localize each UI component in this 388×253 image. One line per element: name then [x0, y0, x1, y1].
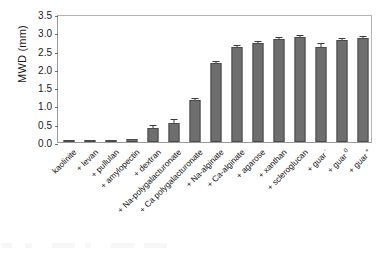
bar-slot	[100, 16, 121, 142]
bar-slot	[58, 16, 79, 142]
bar[interactable]	[147, 128, 158, 142]
y-tick-label: 0.0	[26, 138, 52, 149]
error-bar-cap	[170, 119, 177, 120]
bar-slot	[352, 16, 373, 142]
x-tick-label-text: kaolinite	[50, 147, 79, 176]
bar[interactable]	[105, 140, 116, 142]
error-bar-cap	[338, 38, 345, 39]
bar-slot	[79, 16, 100, 142]
error-bar-cap	[275, 37, 282, 38]
bar[interactable]	[63, 140, 74, 142]
error-bar	[173, 120, 174, 123]
error-bar	[362, 37, 363, 38]
error-bar	[194, 99, 195, 100]
bar-slot	[184, 16, 205, 142]
bar[interactable]	[189, 100, 200, 142]
bar-chart-figure: MWD (mm) 0.00.51.01.52.02.53.03.5 kaolin…	[0, 0, 388, 253]
error-bar	[152, 126, 153, 129]
error-bar-cap	[191, 98, 198, 99]
caption-smudge	[2, 243, 167, 248]
y-tick-mark	[55, 16, 58, 17]
plot-area	[57, 15, 372, 143]
error-bar	[215, 62, 216, 63]
bar[interactable]	[210, 63, 221, 142]
y-tick-label: 3.0	[26, 28, 52, 39]
y-tick-label: 3.5	[26, 10, 52, 21]
bar-slot	[247, 16, 268, 142]
bar[interactable]	[126, 139, 137, 142]
error-bar-cap	[149, 125, 156, 126]
y-tick-mark	[55, 126, 58, 127]
error-bar	[341, 39, 342, 40]
y-tick-label: 2.5	[26, 46, 52, 57]
x-tick-label: kaolinite	[50, 147, 79, 176]
bar[interactable]	[336, 40, 347, 142]
error-bar	[299, 36, 300, 37]
error-bar	[320, 44, 321, 47]
bar-slot	[163, 16, 184, 142]
bar[interactable]	[294, 37, 305, 142]
bar[interactable]	[357, 38, 368, 142]
bar[interactable]	[252, 43, 263, 142]
error-bar-cap	[317, 43, 324, 44]
bar[interactable]	[231, 47, 242, 142]
y-tick-mark	[55, 89, 58, 90]
y-tick-label: 1.0	[26, 101, 52, 112]
y-axis-tick-labels: 0.00.51.01.52.02.53.03.5	[26, 9, 52, 145]
y-tick-mark	[55, 71, 58, 72]
y-tick-label: 0.5	[26, 119, 52, 130]
error-bar	[257, 42, 258, 43]
x-axis-tick-labels: kaolinite+ levan+ pullulan+ amylopectin+…	[57, 144, 372, 244]
bar-slot	[310, 16, 331, 142]
bar-slot	[205, 16, 226, 142]
error-bar	[278, 38, 279, 39]
bar-slot	[121, 16, 142, 142]
bar[interactable]	[315, 47, 326, 142]
error-bar-cap	[233, 45, 240, 46]
bar[interactable]	[168, 123, 179, 142]
bar-slot	[142, 16, 163, 142]
bar-slot	[289, 16, 310, 142]
error-bar-cap	[254, 41, 261, 42]
error-bar-cap	[359, 36, 366, 37]
y-tick-label: 1.5	[26, 83, 52, 94]
y-tick-mark	[55, 107, 58, 108]
error-bar-cap	[212, 61, 219, 62]
bar-slot	[268, 16, 289, 142]
y-tick-mark	[55, 53, 58, 54]
bar[interactable]	[273, 39, 284, 142]
error-bar-cap	[296, 35, 303, 36]
bar[interactable]	[84, 140, 95, 142]
bars-layer	[58, 16, 371, 142]
bar-slot	[331, 16, 352, 142]
bar-slot	[226, 16, 247, 142]
error-bar	[236, 46, 237, 47]
y-tick-mark	[55, 34, 58, 35]
y-tick-label: 2.0	[26, 64, 52, 75]
